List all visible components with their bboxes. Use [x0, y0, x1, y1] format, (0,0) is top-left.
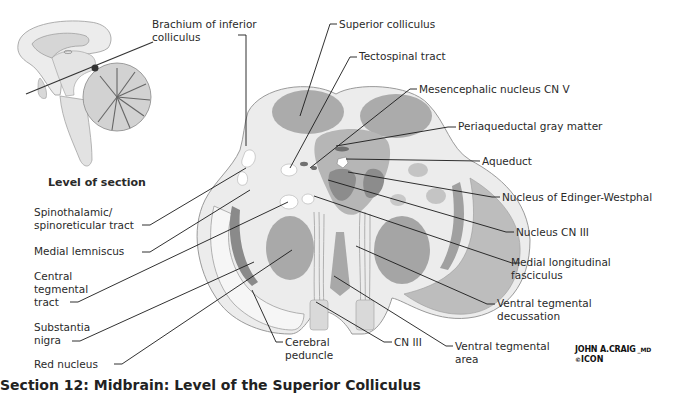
label-mesencephalic-nucleus: Mesencephalic nucleus CN V — [419, 83, 570, 96]
label-central-tegmental-tract: Central tegmental tract — [34, 270, 88, 309]
label-ventral-tegmental-area: Ventral tegmental area — [455, 340, 550, 366]
label-red-nucleus: Red nucleus — [34, 358, 98, 371]
inset-sagittal-brain — [18, 21, 153, 166]
label-cn3: CN III — [394, 336, 422, 349]
label-spinothalamic-tract: Spinothalamic/ spinoreticular tract — [34, 206, 134, 232]
label-nucleus-edinger-westphal: Nucleus of Edinger-Westphal — [502, 191, 652, 204]
inset-label: Level of section — [48, 176, 146, 189]
label-periaqueductal-gray: Periaqueductal gray matter — [458, 120, 602, 133]
label-cerebral-peduncle: Cerebral peduncle — [285, 336, 333, 362]
label-ventral-tegmental-decussation: Ventral tegmental decussation — [497, 297, 592, 323]
label-superior-colliculus: Superior colliculus — [339, 18, 435, 31]
label-brachium-inferior-colliculus: Brachium of inferior colliculus — [152, 18, 257, 44]
label-aqueduct: Aqueduct — [482, 155, 532, 168]
label-substantia-nigra: Substantia nigra — [34, 321, 90, 347]
publisher-logo: ©ICON — [575, 355, 603, 364]
artist-signature: JOHN A.CRAIG _MD — [575, 345, 651, 354]
figure-caption: Section 12: Midbrain: Level of the Super… — [0, 377, 421, 393]
label-medial-lemniscus: Medial lemniscus — [34, 245, 124, 258]
label-medial-longitudinal-fasciculus: Medial longitudinal fasciculus — [511, 256, 611, 282]
label-nucleus-cn3: Nucleus CN III — [516, 226, 589, 239]
label-tectospinal-tract: Tectospinal tract — [359, 50, 446, 63]
